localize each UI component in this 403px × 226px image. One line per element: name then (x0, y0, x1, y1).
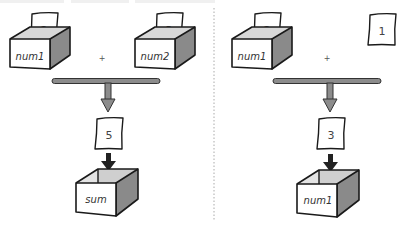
box-label: num1 (238, 51, 267, 62)
arrow-down-icon (323, 99, 337, 112)
box-label: num1 (304, 195, 333, 206)
result-paper: 3 (317, 118, 345, 149)
right-panel: 2 num1 + 1 3 num1 (232, 13, 396, 217)
arrow-down-icon (101, 99, 115, 112)
box-label: num2 (141, 51, 170, 62)
box-label: sum (85, 194, 107, 205)
diagram-canvas: 2 num1 + 3 num2 5 (0, 0, 403, 226)
paper-value: 5 (106, 129, 113, 142)
variable-box-num2: 3 num2 (135, 13, 195, 69)
literal-paper: 1 (368, 14, 396, 45)
result-paper: 5 (95, 118, 123, 149)
combine-bar (52, 79, 160, 113)
plus-operator: + (324, 54, 331, 63)
paper-value: 3 (328, 129, 335, 142)
paper-value: 1 (379, 25, 386, 38)
combine-bar (273, 79, 381, 113)
box-label: num1 (16, 51, 45, 62)
plus-operator: + (99, 54, 106, 63)
variable-box-num1-target: num1 (297, 170, 359, 217)
variable-box-num1: 2 num1 (10, 13, 70, 69)
variable-box-sum: sum (76, 169, 138, 216)
left-panel: 2 num1 + 3 num2 5 (10, 13, 195, 216)
variable-box-num1: 2 num1 (232, 13, 292, 69)
